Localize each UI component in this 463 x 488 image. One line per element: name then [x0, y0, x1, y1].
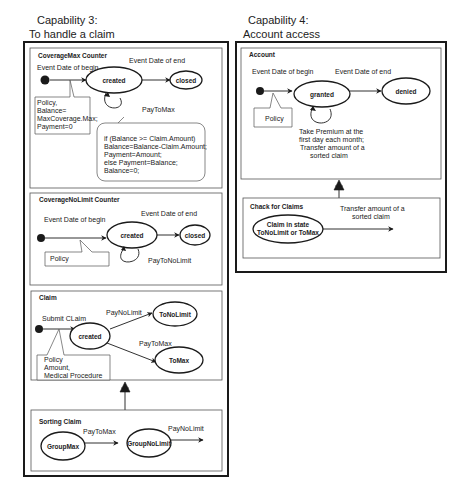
- note-line3: Medical Procedure: [44, 372, 102, 379]
- state-tonolimit-label: ToNoLimit: [159, 311, 191, 318]
- event-submit-claim: Submit CLaim: [42, 315, 86, 322]
- note-transition-line1: if (Balance >= Claim.Amount): [104, 135, 195, 143]
- transition-line1: Transfer amount of a: [340, 205, 405, 212]
- note-transition-line5: Balance=0;: [104, 167, 139, 174]
- note-initial-line2: Balance=: [37, 107, 66, 114]
- note-transition-line2: Balance=Balance-Claim.Amount;: [104, 143, 207, 150]
- state-claim-line1: Claim in state: [267, 221, 310, 228]
- event-end-label: Event Date of end: [141, 210, 197, 217]
- state-closed-label: closed: [185, 232, 206, 239]
- coverage-max-counter-pane: CoverageMax Counter Event Date of begin …: [30, 48, 222, 188]
- state-groupmax-label: GroupMax: [47, 443, 80, 451]
- state-created-label: created: [102, 77, 125, 84]
- sorting-claim-pane: Sorting Claim GroupMax PayToMax GroupNoL…: [31, 410, 222, 471]
- dependency-arrow-icon: [120, 382, 130, 392]
- note-transition-line3: Payment=Amount;: [104, 151, 162, 159]
- transition-paytomax: PayToMax: [83, 428, 116, 436]
- dependency-arrow-icon: [334, 180, 344, 190]
- note-policy: Policy: [265, 115, 284, 123]
- state-claim-line2: ToNoLimit or ToMax: [257, 229, 319, 236]
- note-policy: Policy: [50, 255, 69, 263]
- event-begin-label: Event Date of begin: [44, 216, 106, 224]
- transition-line2: sorted claim: [352, 213, 390, 220]
- account-pane: Account Event Date of begin Event Date o…: [241, 48, 441, 179]
- state-created-label: created: [120, 232, 143, 239]
- note-initial-line1: Policy,: [37, 99, 57, 107]
- note-line2: Amount,: [44, 364, 70, 371]
- state-groupnolimit-label: GroupNoLimit: [127, 440, 172, 448]
- event-end-label: Event Date of end: [129, 57, 185, 64]
- self-transition-paytomax: PayToMax: [142, 106, 175, 114]
- state-denied-label: denied: [396, 88, 417, 95]
- claim-title: Claim: [39, 294, 57, 301]
- initial-state-dot: [256, 87, 264, 95]
- claim-pane: Claim Submit CLaim created PayNoLimit To…: [31, 291, 222, 380]
- state-granted-label: granted: [310, 91, 334, 99]
- initial-state-dot: [37, 234, 45, 242]
- state-created-label: created: [78, 333, 101, 340]
- check-for-claims-title: Chack for Claims: [250, 203, 303, 210]
- self-transition-line2: first day each month;: [299, 136, 364, 144]
- self-transition-line4: sorted claim: [310, 152, 348, 159]
- event-begin-label: Event Date of begin: [252, 68, 314, 76]
- account-title: Account: [249, 51, 276, 58]
- note-initial-line3: MaxCoverage.Max;: [37, 115, 98, 123]
- note-transition-line4: else Payment=Balance;: [104, 159, 178, 167]
- self-transition-line1: Take Premium at the: [299, 128, 363, 135]
- initial-state-dot: [41, 76, 50, 85]
- sorting-claim-title: Sorting Claim: [39, 418, 81, 426]
- note-line1: Policy: [44, 356, 63, 364]
- self-transition-paytonolimit: PayToNoLimit: [148, 257, 191, 265]
- transition-paytomax: PayToMax: [139, 340, 172, 348]
- check-for-claims-pane: Chack for Claims Claim in state ToNoLimi…: [243, 198, 440, 258]
- state-closed-label: closed: [176, 77, 197, 84]
- coverage-max-counter-title: CoverageMax Counter: [38, 52, 107, 60]
- initial-state-dot: [35, 325, 43, 333]
- event-begin-label: Event Date of begin: [37, 64, 99, 72]
- transition-paynolimit: PayNoLimit: [168, 425, 204, 433]
- event-end-label: Event Date of end: [335, 68, 391, 75]
- transition-paynolimit: PayNoLimit: [106, 309, 142, 317]
- state-tomax-label: ToMax: [169, 357, 189, 364]
- coverage-nolimit-counter-title: CoverageNoLimit Counter: [39, 196, 120, 204]
- note-initial-line4: Payment=0: [37, 123, 73, 131]
- diagram-canvas: CoverageMax Counter Event Date of begin …: [0, 0, 463, 488]
- coverage-nolimit-counter-pane: CoverageNoLimit Counter Event Date of be…: [30, 193, 222, 285]
- self-transition-line3: Transfer amount of a: [300, 144, 365, 151]
